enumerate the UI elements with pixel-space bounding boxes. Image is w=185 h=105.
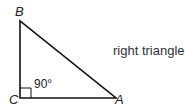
diagram-caption: right triangle bbox=[113, 43, 185, 58]
triangle-diagram: B C A 90° right triangle bbox=[0, 0, 185, 105]
vertex-label-c: C bbox=[9, 92, 19, 105]
vertex-label-b: B bbox=[15, 4, 24, 19]
right-angle-marker bbox=[20, 88, 31, 98]
angle-label: 90° bbox=[34, 77, 52, 91]
vertex-label-a: A bbox=[114, 92, 124, 105]
